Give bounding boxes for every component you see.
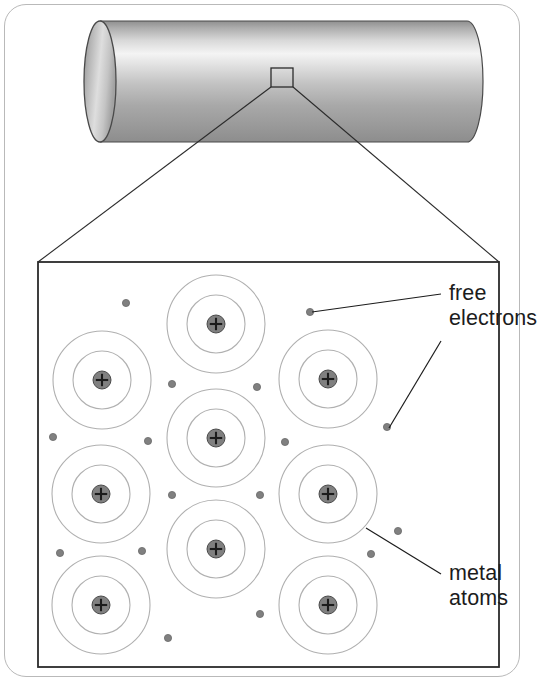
label-metal-atoms-line2: atoms [449,586,508,611]
free-electron [256,491,263,498]
label-metal-atoms: metal atoms [449,561,508,611]
label-free-electrons: free electrons [449,281,537,331]
label-free-electrons-line2: electrons [449,306,537,331]
free-electron [168,380,175,387]
rod-right-cap [467,21,483,142]
free-electron [253,383,260,390]
free-electron [281,438,288,445]
label-metal-atoms-line1: metal [449,561,508,586]
free-electron [256,610,263,617]
free-electron [394,527,401,534]
free-electron [168,491,175,498]
free-electron [49,433,56,440]
free-electron [122,299,129,306]
rod-left-cap [84,21,116,142]
label-free-electrons-line1: free [449,281,537,306]
metal-rod [84,21,483,142]
free-electron [138,547,145,554]
free-electron [164,634,171,641]
free-electron [56,549,63,556]
rod-body [100,21,467,142]
free-electron [367,550,374,557]
free-electron [144,437,151,444]
